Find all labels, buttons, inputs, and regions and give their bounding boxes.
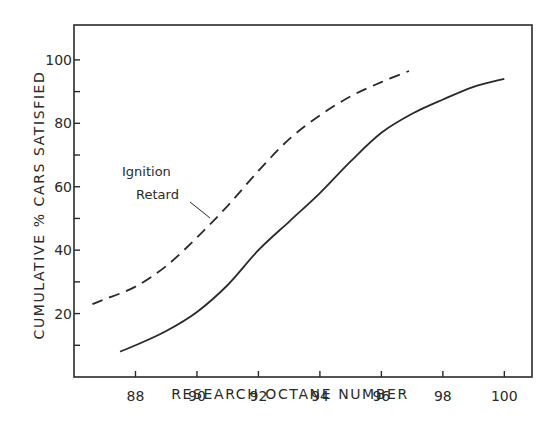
x-tick-label: 98: [434, 388, 452, 404]
x-axis-title: RESEARCH OCTANE NUMBER: [171, 386, 408, 402]
annotation-leader-line: [190, 202, 210, 218]
annotation-ignition: Ignition: [122, 164, 171, 179]
y-tick-label: 20: [54, 306, 72, 322]
x-tick-label: 100: [491, 388, 518, 404]
y-tick-label: 80: [54, 115, 72, 131]
chart-figure: 889092949698100 20406080100 RESEARCH OCT…: [0, 0, 556, 441]
x-tick-label: 88: [127, 388, 145, 404]
annotation-retard: Retard: [136, 187, 179, 202]
y-tick-label: 40: [54, 242, 72, 258]
y-tick-label: 100: [45, 52, 72, 68]
y-axis-title: CUMULATIVE % CARS SATISFIED: [31, 71, 47, 340]
y-tick-label: 60: [54, 179, 72, 195]
